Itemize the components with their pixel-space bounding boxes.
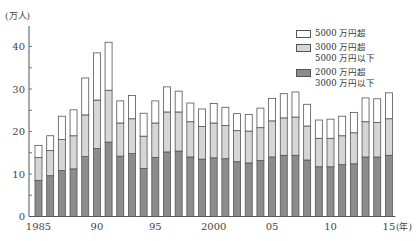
x-tick-label: 10 <box>324 221 337 232</box>
bar-segment <box>117 101 124 123</box>
bar-segment <box>117 156 124 216</box>
bar-segment <box>327 138 334 166</box>
y-axis-unit-label: (万人) <box>5 11 30 21</box>
x-tick-label: 05 <box>266 221 279 232</box>
y-tick-label: 40 <box>12 41 25 52</box>
bar-segment <box>280 118 287 155</box>
bar-segment <box>327 119 334 138</box>
bar-segment <box>245 163 252 217</box>
bar-segment <box>187 103 194 122</box>
bar-segment <box>280 155 287 216</box>
bar-segment <box>315 167 322 217</box>
bar-segment <box>350 133 357 164</box>
bar-segment <box>70 110 77 136</box>
bar-segment <box>210 158 217 217</box>
bar-segment <box>210 123 217 158</box>
bar-segment <box>128 119 135 154</box>
bar-segment <box>199 109 206 126</box>
bar-segment <box>82 157 89 217</box>
bar-segment <box>269 157 276 217</box>
legend-label: 3000 万円以下 <box>315 78 375 89</box>
x-tick-label: 1985 <box>26 221 51 232</box>
bar-segment <box>163 112 170 152</box>
bar-segment <box>58 116 65 139</box>
bar-segment <box>35 180 42 216</box>
x-axis-unit-label: (年) <box>396 221 412 232</box>
bar-segment <box>234 131 241 162</box>
bar-segment <box>35 157 42 180</box>
bar-segment <box>175 112 182 151</box>
bar-segment <box>82 115 89 157</box>
bar-segment <box>82 78 89 115</box>
bar-segment <box>152 101 159 123</box>
legend-label: 5000 万円以下 <box>315 53 375 64</box>
bar-segment <box>187 122 194 157</box>
bar-segment <box>362 98 369 122</box>
bar-segment <box>105 142 112 216</box>
legend-swatch-white <box>296 30 311 38</box>
bar-segment <box>257 128 264 161</box>
bar-segment <box>222 159 229 217</box>
legend-item-over-5000: 5000 万円超 <box>296 28 375 39</box>
bar-segment <box>385 119 392 156</box>
bar-segment <box>374 123 381 157</box>
x-tick-label: 90 <box>91 221 104 232</box>
bar-segment <box>128 154 135 217</box>
legend-item-3000-5000: 3000 万円超 5000 万円以下 <box>296 42 375 64</box>
bar-segment <box>385 155 392 216</box>
bar-segment <box>269 98 276 121</box>
figure-caption-clipped <box>58 234 208 241</box>
bar-segment <box>234 162 241 217</box>
legend-label: 3000 万円超 <box>315 42 375 53</box>
y-tick-label: 30 <box>12 84 25 95</box>
bar-segment <box>93 149 100 217</box>
bar-segment <box>163 87 170 112</box>
bar-segment <box>350 164 357 217</box>
bar-segment <box>140 168 147 216</box>
bar-segment <box>152 123 159 157</box>
bar-segment <box>245 131 252 163</box>
bar-segment <box>257 108 264 128</box>
bar-segment <box>140 113 147 136</box>
bar-segment <box>140 136 147 168</box>
bar-segment <box>47 136 54 151</box>
bar-segment <box>175 91 182 112</box>
bar-segment <box>187 157 194 217</box>
bar-segment <box>304 126 311 160</box>
bar-segment <box>47 176 54 217</box>
bar-segment <box>70 169 77 217</box>
bar-segment <box>269 121 276 157</box>
bar-segment <box>350 112 357 132</box>
bar-segment <box>93 100 100 148</box>
bar-segment <box>199 159 206 216</box>
x-tick-label: 15 <box>383 221 396 232</box>
y-tick-label: 10 <box>12 169 25 180</box>
bar-segment <box>47 151 54 176</box>
bar-segment <box>70 136 77 169</box>
bar-segment <box>292 117 299 155</box>
bar-segment <box>222 126 229 159</box>
bar-segment <box>339 116 346 136</box>
bar-segment <box>199 126 206 159</box>
legend-swatch-light-gray <box>296 44 311 52</box>
x-tick-label: 95 <box>149 221 162 232</box>
bar-segment <box>163 152 170 217</box>
bar-segment <box>362 157 369 217</box>
y-tick-label: 0 <box>19 211 25 222</box>
y-tick-label: 20 <box>12 126 25 137</box>
bar-segment <box>35 146 42 158</box>
bar-segment <box>292 155 299 216</box>
bar-segment <box>93 53 100 100</box>
bar-segment <box>152 157 159 216</box>
bar-segment <box>117 123 124 156</box>
legend: 5000 万円超 3000 万円超 5000 万円以下 2000 万円超 300… <box>296 28 375 92</box>
x-tick-label: 2000 <box>201 221 226 232</box>
bar-segment <box>245 115 252 132</box>
bar-segment <box>374 99 381 123</box>
bar-segment <box>280 94 287 118</box>
bar-segment <box>175 151 182 216</box>
bar-segment <box>58 171 65 217</box>
bar-segment <box>304 104 311 126</box>
legend-label: 5000 万円超 <box>315 28 366 39</box>
legend-item-2000-3000: 2000 万円超 3000 万円以下 <box>296 67 375 89</box>
